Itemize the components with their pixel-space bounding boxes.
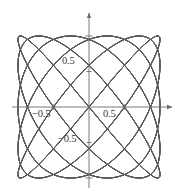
lissajous-figure: 0.5 −0.5 −0.5 0.5	[0, 0, 184, 195]
y-axis-tick-label-positive-half: 0.5	[62, 55, 75, 66]
x-axis-tick-label-negative-half: −0.5	[32, 108, 50, 119]
x-axis-tick-label-positive-half: 0.5	[103, 108, 116, 119]
y-axis-tick-label-negative-half: −0.5	[58, 133, 76, 144]
plot-canvas	[0, 0, 184, 195]
